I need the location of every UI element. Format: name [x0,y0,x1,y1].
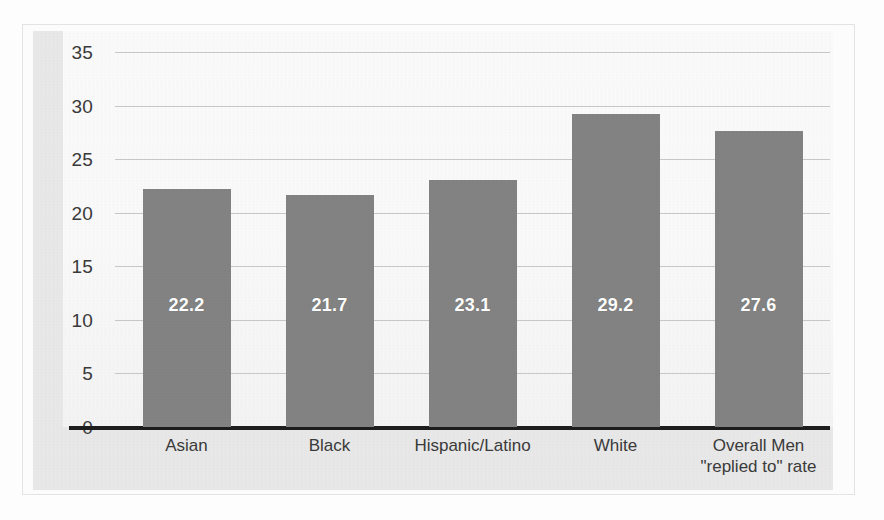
x-axis-category-labels: AsianBlackHispanic/LatinoWhiteOverall Me… [33,435,833,490]
x-axis-category-label: White [544,435,687,456]
bar: 22.2 [143,189,231,427]
bar-value-label: 29.2 [572,295,660,316]
bar: 29.2 [572,114,660,427]
x-axis-category-label: Black [258,435,401,456]
x-axis-category-label: Asian [115,435,258,456]
bar-value-label: 27.6 [715,295,803,316]
bar: 23.1 [429,180,517,428]
bar-value-label: 22.2 [143,295,231,316]
bar-value-label: 23.1 [429,295,517,316]
x-axis-category-label: Hispanic/Latino [401,435,544,456]
bar: 27.6 [715,131,803,427]
bar-series: 22.221.723.129.227.6 [33,31,833,427]
bar-chart: 05101520253035 22.221.723.129.227.6 Asia… [33,31,833,490]
figure-page: 05101520253035 22.221.723.129.227.6 Asia… [0,0,884,520]
bar: 21.7 [286,195,374,428]
x-axis-category-label: Overall Men "replied to" rate [687,435,830,478]
bar-value-label: 21.7 [286,295,374,316]
